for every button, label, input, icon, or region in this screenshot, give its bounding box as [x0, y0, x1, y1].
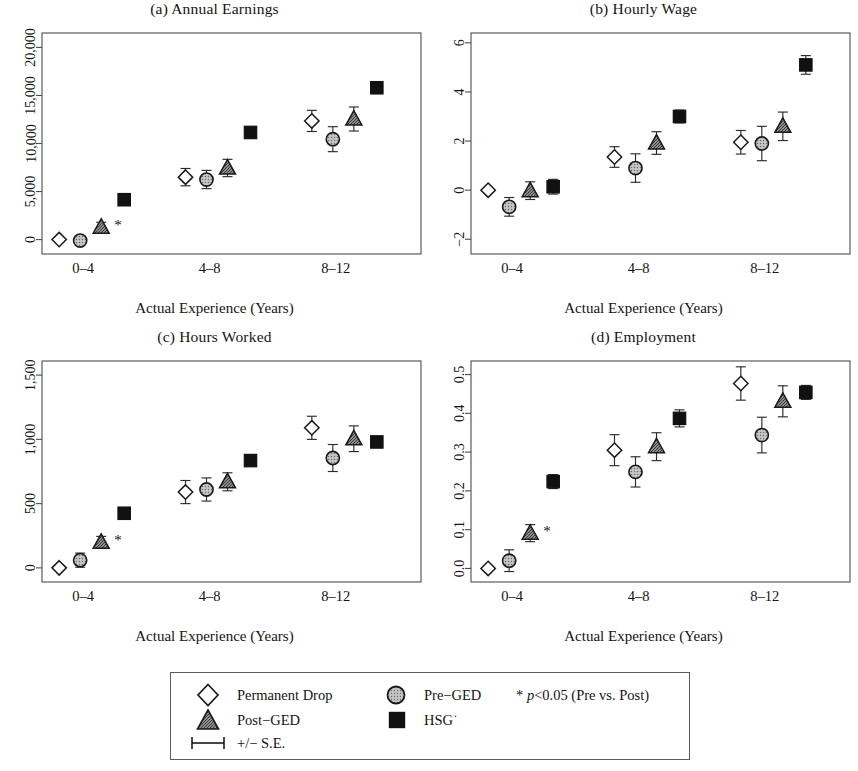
- x-tick-label: 8–12: [321, 260, 350, 276]
- figure-panel-grid: (a) Annual Earnings 05,00010,00015,00020…: [0, 0, 858, 771]
- y-tick-label: 0: [24, 564, 39, 571]
- data-point: [371, 436, 383, 448]
- data-point: [522, 182, 538, 200]
- panel-annual-earnings: (a) Annual Earnings 05,00010,00015,00020…: [0, 0, 429, 325]
- y-tick-label: 0.0: [453, 560, 468, 578]
- panel-b-xlabel: Actual Experience (Years): [429, 300, 858, 317]
- y-tick-label: 6: [453, 39, 468, 46]
- data-point: [547, 179, 559, 194]
- data-point: [481, 183, 495, 197]
- panel-c-title: (c) Hours Worked: [0, 328, 429, 346]
- legend-label-hsg: HSG˙: [424, 712, 458, 729]
- legend-label-se: +/− S.E.: [237, 735, 285, 752]
- data-point: [74, 553, 87, 567]
- data-point: [734, 367, 748, 400]
- data-point: [52, 561, 66, 575]
- y-tick-label: 10,000: [24, 124, 39, 163]
- circle-gray-icon: [384, 683, 408, 707]
- y-tick-label: 0: [453, 187, 468, 194]
- significance-asterisk: *: [114, 532, 122, 548]
- data-point: [346, 107, 362, 131]
- data-point: [305, 110, 319, 131]
- error-bar-icon: [189, 733, 227, 753]
- legend-box: Permanent Drop Post−GED: [170, 672, 690, 760]
- legend-label-pre-ged: Pre−GED: [424, 687, 481, 704]
- data-point: [346, 426, 362, 452]
- panel-employment: (d) Employment 0.00.10.20.30.40.50–44–88…: [429, 328, 858, 653]
- y-tick-label: 15,000: [24, 76, 39, 115]
- y-tick-label: 500: [24, 493, 39, 514]
- data-point: [649, 132, 665, 155]
- legend-label-permanent-drop: Permanent Drop: [237, 687, 332, 704]
- y-tick-label: 20,000: [24, 28, 39, 66]
- data-point: [755, 417, 768, 453]
- data-point: [775, 112, 791, 140]
- data-point: [93, 219, 109, 233]
- legend-label-post-ged: Post−GED: [237, 712, 300, 729]
- y-tick-label: 1,000: [24, 424, 39, 456]
- data-point: [522, 525, 538, 542]
- triangle-gray-icon: [195, 707, 221, 733]
- data-point: [200, 170, 213, 188]
- x-tick-label: 8–12: [750, 588, 779, 604]
- panel-b-plot: −202460–44–88–12: [429, 22, 858, 287]
- y-tick-label: 1,500: [24, 359, 39, 391]
- data-point: [503, 550, 516, 572]
- data-point: [118, 194, 130, 206]
- data-point: [607, 147, 621, 168]
- y-tick-label: 2: [453, 138, 468, 145]
- data-point: [673, 410, 685, 427]
- data-point: [673, 110, 685, 123]
- x-tick-label: 0–4: [72, 260, 95, 276]
- data-point: [607, 435, 621, 466]
- data-point: [178, 168, 192, 185]
- x-tick-label: 0–4: [501, 260, 524, 276]
- data-point: [220, 473, 236, 491]
- data-point: [503, 198, 516, 217]
- x-tick-label: 4–8: [199, 260, 221, 276]
- y-tick-label: 0.1: [453, 521, 468, 539]
- diamond-open-icon: [195, 682, 221, 708]
- panel-c-xlabel: Actual Experience (Years): [0, 628, 429, 645]
- y-tick-label: 0.2: [453, 482, 468, 500]
- data-point: [74, 234, 87, 247]
- data-point: [244, 454, 256, 466]
- legend-significance-note: * p<0.05 (Pre vs. Post): [516, 687, 649, 704]
- panel-d-xlabel: Actual Experience (Years): [429, 628, 858, 645]
- significance-asterisk: *: [114, 217, 122, 233]
- y-tick-label: 0.3: [453, 443, 468, 461]
- panel-c-plot: 05001,0001,5000–44–88–12*: [0, 350, 429, 615]
- panel-hourly-wage: (b) Hourly Wage −202460–44–88–12 Actual …: [429, 0, 858, 325]
- data-point: [178, 480, 192, 503]
- panel-b-title: (b) Hourly Wage: [429, 0, 858, 18]
- data-point: [775, 386, 791, 417]
- data-point: [244, 126, 256, 138]
- data-point: [547, 475, 559, 489]
- panel-a-title: (a) Annual Earnings: [0, 0, 429, 18]
- y-tick-label: 4: [453, 88, 468, 95]
- panel-d-title: (d) Employment: [429, 328, 858, 346]
- x-tick-label: 0–4: [501, 588, 524, 604]
- data-point: [200, 478, 213, 501]
- data-point: [629, 457, 642, 487]
- legend-p-value: <0.05 (Pre vs. Post): [534, 687, 649, 703]
- panel-a-plot: 05,00010,00015,00020,0000–44–88–12*: [0, 22, 429, 287]
- y-tick-label: 5,000: [24, 176, 39, 208]
- significance-asterisk: *: [543, 523, 551, 539]
- y-tick-label: 0: [24, 236, 39, 243]
- data-point: [734, 130, 748, 154]
- data-point: [220, 159, 236, 176]
- data-point: [52, 232, 66, 246]
- data-point: [800, 56, 812, 75]
- x-tick-label: 8–12: [750, 260, 779, 276]
- y-tick-label: 0.4: [453, 405, 468, 423]
- y-tick-label: −2: [453, 232, 468, 247]
- data-point: [326, 127, 339, 152]
- legend-star: *: [516, 687, 523, 703]
- panel-hours-worked: (c) Hours Worked 05001,0001,5000–44–88–1…: [0, 328, 429, 653]
- x-tick-label: 8–12: [321, 588, 350, 604]
- x-tick-label: 4–8: [199, 588, 221, 604]
- data-point: [800, 385, 812, 399]
- data-point: [326, 445, 339, 472]
- square-black-icon: [386, 709, 408, 731]
